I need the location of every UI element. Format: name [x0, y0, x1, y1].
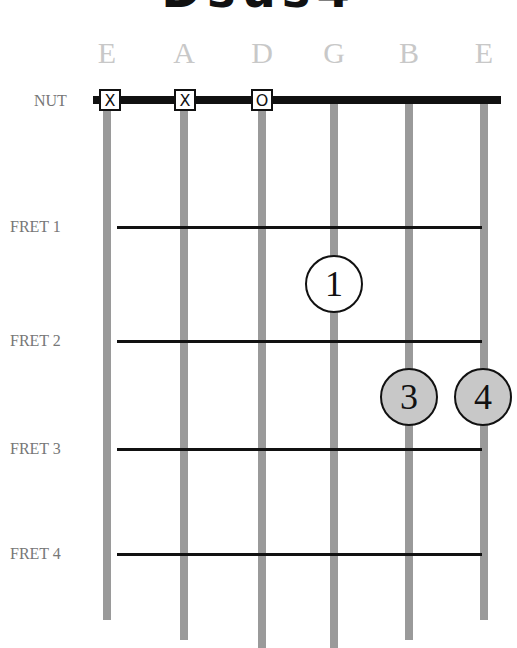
- chord-title: Dsus4: [0, 0, 517, 18]
- muted-string-icon: X: [174, 89, 196, 111]
- string-name-a: A: [173, 36, 195, 70]
- fret-label-1: FRET 1: [10, 218, 61, 236]
- string-line-low-e: [103, 100, 111, 620]
- fret-line-4: [117, 553, 482, 556]
- string-name-b: B: [399, 36, 419, 70]
- finger-3-marker: 3: [380, 368, 438, 426]
- string-line-d: [258, 100, 266, 648]
- fret-label-2: FRET 2: [10, 332, 61, 350]
- string-name-d: D: [251, 36, 273, 70]
- finger-1-marker: 1: [305, 255, 363, 313]
- string-name-high-e: E: [475, 36, 493, 70]
- fret-line-3: [117, 448, 482, 451]
- string-name-low-e: E: [98, 36, 116, 70]
- nut-label: NUT: [34, 92, 67, 110]
- muted-string-icon: X: [99, 89, 121, 111]
- string-line-high-e: [480, 100, 488, 620]
- fret-label-3: FRET 3: [10, 440, 61, 458]
- string-line-g: [330, 100, 338, 648]
- finger-4-marker: 4: [454, 368, 512, 426]
- string-line-a: [180, 100, 188, 640]
- fret-line-1: [117, 226, 482, 229]
- fret-line-2: [117, 340, 482, 343]
- nut: [93, 96, 501, 104]
- open-string-icon: O: [251, 89, 273, 111]
- fret-label-4: FRET 4: [10, 545, 61, 563]
- string-name-g: G: [323, 36, 345, 70]
